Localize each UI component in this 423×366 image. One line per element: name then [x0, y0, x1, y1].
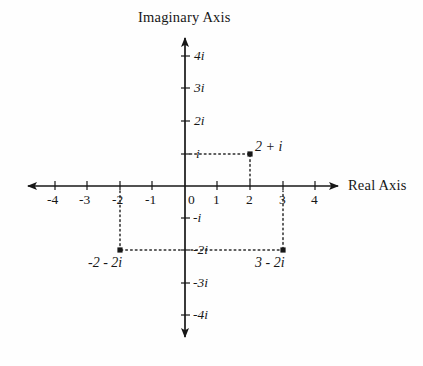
x-tick-label-minus2: -2 — [112, 193, 123, 207]
x-tick-label-3: 3 — [279, 193, 286, 207]
y-tick-label-minus-2i: -2i — [193, 243, 208, 257]
x-tick-label-2: 2 — [246, 193, 253, 207]
x-tick-label-zero: 0 — [188, 193, 195, 207]
y-tick-label-minus-4i: -4i — [193, 308, 208, 322]
imaginary-axis-title: Imaginary Axis — [138, 10, 231, 25]
y-tick-label-2i: 2i — [194, 114, 205, 128]
x-tick-label-1: 1 — [213, 193, 220, 207]
y-tick-label-3i: 3i — [194, 81, 205, 95]
point-marker-2-plus-i — [247, 151, 252, 156]
y-tick-label-i: i — [196, 147, 200, 161]
x-tick-label-4: 4 — [311, 193, 318, 207]
y-tick-label-minus-i: -i — [193, 211, 201, 225]
y-tick-label-minus-3i: -3i — [193, 276, 208, 290]
point-label-2-plus-i: 2 + i — [255, 140, 282, 154]
point-label-minus2-minus2i: -2 - 2i — [88, 256, 122, 270]
point-label-3-minus2i: 3 - 2i — [255, 256, 285, 270]
x-tick-label-minus4: -4 — [47, 193, 58, 207]
point-marker-3-minus2i — [280, 247, 285, 252]
x-tick-label-minus3: -3 — [79, 193, 90, 207]
y-tick-label-4i: 4i — [194, 49, 205, 63]
real-axis-title: Real Axis — [348, 178, 407, 193]
point-marker-minus2-minus2i — [117, 247, 122, 252]
complex-plane-figure: Imaginary Axis Real Axis -4 -3 -2 -1 0 1… — [0, 0, 423, 366]
x-tick-label-minus1: -1 — [145, 193, 156, 207]
